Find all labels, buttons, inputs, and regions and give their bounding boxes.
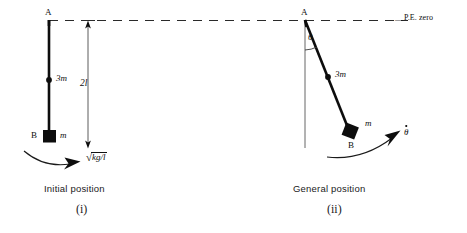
theta-glyph: θ <box>404 127 408 137</box>
radicand: kg/l <box>91 152 107 162</box>
angular-velocity-arrow-right <box>327 131 401 158</box>
angle-label-theta: θ <box>308 33 312 42</box>
block-m-right <box>342 123 359 140</box>
pivot-label-a-right: A <box>301 8 308 17</box>
caption-general-position: General position <box>293 184 365 194</box>
caption-roman-i: (i) <box>76 203 87 215</box>
mass-label-m-right: m <box>365 119 372 128</box>
mass-label-3m-right: 3m <box>335 70 346 79</box>
caption-initial-position: Initial position <box>44 184 105 194</box>
pe-zero-leader-dash: __ <box>395 14 403 22</box>
panel-i-graphics <box>24 20 95 170</box>
dimension-label-2l: 2l <box>80 79 87 89</box>
point-label-b-left: B <box>31 131 37 140</box>
mass-label-m-left: m <box>60 131 67 140</box>
pe-zero-label: P.E. zero <box>404 14 433 22</box>
pivot-a-tick-right <box>305 20 307 27</box>
pivot-label-a-left: A <box>45 8 52 17</box>
point-label-b-right: B <box>348 141 354 150</box>
block-m-left <box>43 130 56 143</box>
panel-ii-graphics <box>305 20 401 158</box>
velocity-arrow-left <box>24 151 81 170</box>
velocity-label-sqrt-kg-over-l: √kg/l <box>86 152 107 163</box>
particle-3m-right <box>325 74 331 80</box>
overdot-icon <box>405 125 407 127</box>
mass-label-3m-left: 3m <box>56 74 67 83</box>
figure-canvas <box>0 0 467 233</box>
angular-velocity-label-theta-dot: θ <box>404 128 408 137</box>
particle-3m-left <box>46 77 52 83</box>
caption-roman-ii: (ii) <box>327 203 342 215</box>
physics-figure: P.E. zero __ A 3m B m 2l √kg/l Initial p… <box>0 0 467 233</box>
